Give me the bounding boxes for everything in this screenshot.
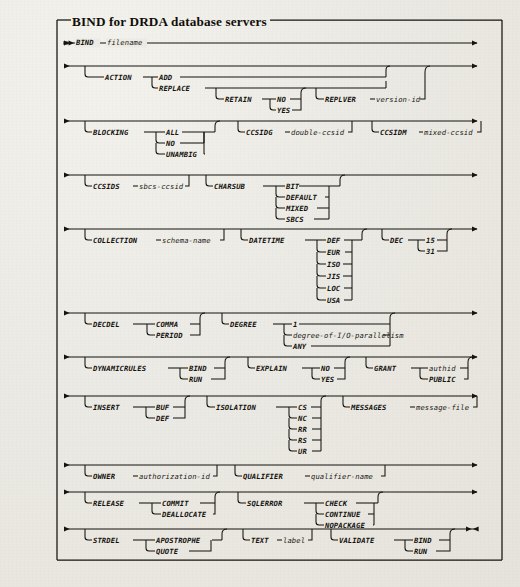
token-deallocate: DEALLOCATE bbox=[161, 510, 207, 519]
token-bind: BIND bbox=[75, 38, 94, 47]
row-bind: BIND filename bbox=[64, 38, 478, 47]
token-mixed: MIXED bbox=[285, 204, 309, 213]
token-charsub: CHARSUB bbox=[214, 182, 246, 191]
row-action: ACTION ADD REPLACE RETAIN NO YES bbox=[64, 63, 478, 114]
token-grant: GRANT bbox=[374, 364, 397, 373]
token-dynamicrules: DYNAMICRULES bbox=[92, 364, 147, 373]
row-decdel: DECDEL COMMA PERIOD DEGREE 1 degree-of-I… bbox=[64, 310, 478, 350]
token-ccsidm: CCSIDM bbox=[380, 128, 407, 137]
token-decdel: DECDEL bbox=[92, 320, 120, 329]
token-sbcs-ccsid: sbcs-ccsid bbox=[139, 182, 184, 191]
token-retain: RETAIN bbox=[225, 95, 252, 104]
token-cs: CS bbox=[298, 403, 307, 412]
token-authid: authid bbox=[429, 364, 456, 373]
token-qualifier-name: qualifier-name bbox=[311, 472, 373, 481]
token-sbcs: SBCS bbox=[286, 215, 304, 224]
row-blocking: BLOCKING ALL NO UNAMBIG CCSIDG double-cc… bbox=[64, 118, 481, 158]
token-run-dynamicrules: RUN bbox=[189, 375, 203, 384]
token-commit: COMMIT bbox=[162, 499, 189, 508]
token-continue: CONTINUE bbox=[325, 510, 361, 519]
token-period: PERIOD bbox=[156, 331, 183, 340]
row-collection: COLLECTION schema-name DATETIME DEF EUR … bbox=[64, 226, 478, 304]
token-degree-1: 1 bbox=[293, 320, 297, 329]
token-message-file: message-file bbox=[415, 403, 469, 412]
token-yes-retain: YES bbox=[277, 106, 291, 115]
token-public: PUBLIC bbox=[429, 375, 456, 384]
token-comma: COMMA bbox=[156, 320, 178, 329]
token-isolation: ISOLATION bbox=[216, 403, 256, 412]
token-release: RELEASE bbox=[93, 499, 125, 508]
row-dynamicrules: DYNAMICRULES BIND RUN EXPLAIN NO YES GRA… bbox=[64, 354, 478, 383]
token-check: CHECK bbox=[325, 499, 348, 508]
token-text: TEXT bbox=[251, 536, 269, 545]
token-blocking: BLOCKING bbox=[92, 128, 129, 137]
token-all: ALL bbox=[165, 128, 179, 137]
token-nc: NC bbox=[297, 414, 307, 423]
token-run-validate: RUN bbox=[414, 547, 428, 556]
token-validate: VALIDATE bbox=[339, 536, 375, 545]
token-sqlerror: SQLERROR bbox=[247, 499, 283, 508]
token-messages: MESSAGES bbox=[350, 403, 387, 412]
token-apostrophe: APOSTROPHE bbox=[155, 536, 201, 545]
token-bind-dynamicrules: BIND bbox=[188, 364, 207, 373]
token-def-insert: DEF bbox=[155, 414, 170, 423]
token-unambig: UNAMBIG bbox=[166, 150, 198, 159]
token-qualifier: QUALIFIER bbox=[243, 472, 283, 481]
railroad-syntax-diagram: .ln{stroke:#15130f;stroke-width:1.05;fil… bbox=[0, 0, 520, 587]
token-explain: EXPLAIN bbox=[256, 364, 288, 373]
token-rr: RR bbox=[298, 425, 307, 434]
token-ccsidg: CCSIDG bbox=[246, 128, 273, 137]
token-label: label bbox=[283, 536, 305, 545]
token-15: 15 bbox=[426, 236, 435, 245]
row-insert: INSERT BUF DEF ISOLATION CS NC RR RS bbox=[64, 393, 478, 455]
token-no-blocking: NO bbox=[165, 139, 175, 148]
token-nopackage: NOPACKAGE bbox=[324, 521, 365, 530]
token-def-datetime: DEF bbox=[326, 236, 341, 245]
token-schema-name: schema-name bbox=[162, 236, 211, 245]
token-rs: RS bbox=[298, 436, 307, 445]
token-ur: UR bbox=[298, 447, 307, 456]
token-31: 31 bbox=[425, 247, 435, 256]
token-no-explain: NO bbox=[320, 364, 330, 373]
token-iso: ISO bbox=[327, 260, 341, 269]
token-any: ANY bbox=[292, 342, 307, 351]
token-no-retain: NO bbox=[276, 95, 286, 104]
token-dec: DEC bbox=[389, 236, 404, 245]
token-bit: BIT bbox=[285, 182, 300, 191]
token-mixed-ccsid: mixed-ccsid bbox=[423, 128, 473, 137]
token-ccsids: CCSIDS bbox=[93, 182, 120, 191]
token-strdel: STRDEL bbox=[93, 536, 120, 545]
row-strdel: STRDEL APOSTROPHE QUOTE TEXT label VALID… bbox=[64, 526, 479, 555]
token-action: ACTION bbox=[104, 73, 132, 82]
token-datetime: DATETIME bbox=[248, 236, 285, 245]
token-yes-explain: YES bbox=[321, 375, 335, 384]
token-default: DEFAULT bbox=[285, 193, 318, 202]
token-buf: BUF bbox=[155, 403, 170, 412]
token-double-ccsid: double-ccsid bbox=[291, 128, 345, 137]
token-replace: REPLACE bbox=[159, 84, 191, 93]
token-authorization-id: authorization-id bbox=[139, 472, 210, 481]
row-release: RELEASE COMMIT DEALLOCATE SQLERROR CHECK… bbox=[64, 489, 478, 529]
token-owner: OWNER bbox=[93, 472, 116, 481]
token-bind-validate: BIND bbox=[413, 536, 432, 545]
token-add: ADD bbox=[158, 73, 173, 82]
token-degree: DEGREE bbox=[229, 320, 257, 329]
row-ccsids: CCSIDS sbcs-ccsid CHARSUB BIT DEFAULT MI… bbox=[64, 172, 478, 223]
token-filename: filename bbox=[107, 38, 142, 47]
token-insert: INSERT bbox=[93, 403, 120, 412]
token-version-id: version-id bbox=[376, 95, 421, 104]
token-jis: JIS bbox=[326, 272, 341, 281]
token-eur: EUR bbox=[327, 248, 341, 257]
token-loc: LOC bbox=[327, 284, 341, 293]
token-usa: USA bbox=[327, 296, 340, 305]
token-replver: REPLVER bbox=[325, 95, 357, 104]
row-owner: OWNER authorization-id QUALIFIER qualifi… bbox=[64, 462, 478, 480]
scanned-page: BIND for DRDA database servers .ln{strok… bbox=[0, 0, 520, 587]
token-quote: QUOTE bbox=[156, 547, 179, 556]
token-collection: COLLECTION bbox=[93, 236, 138, 245]
